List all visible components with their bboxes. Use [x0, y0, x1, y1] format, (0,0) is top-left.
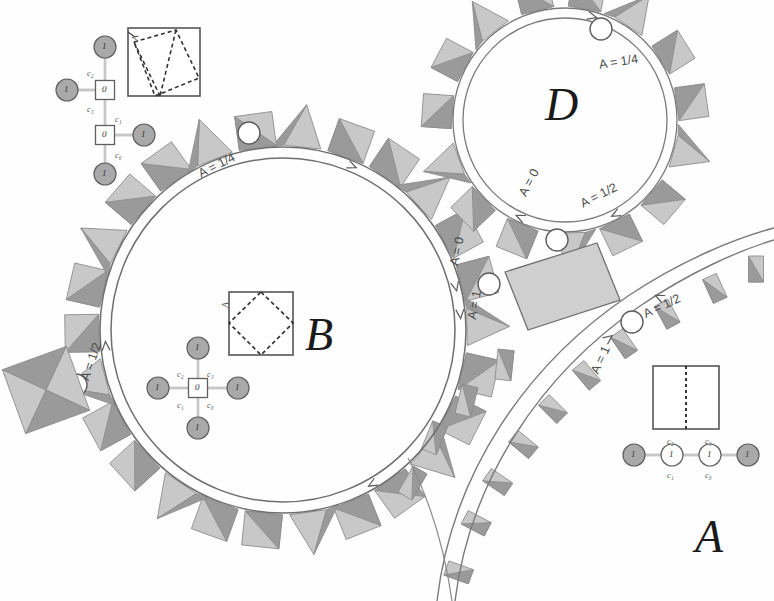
- graph-node-mid-left-label: 1: [669, 449, 674, 459]
- edge-label-c1: c₁: [667, 470, 674, 480]
- junction-node-d-bottom: [546, 229, 568, 251]
- graph-node-square-upper-label: 0: [102, 84, 107, 94]
- edge-label-c2: c₂: [87, 68, 94, 78]
- letter-B: B: [305, 308, 333, 361]
- graph-node-far-left-label: 1: [631, 449, 636, 459]
- graph-node-mid-right-label: 1: [707, 449, 712, 459]
- junction-node-d-top: [590, 18, 612, 40]
- letter-D: D: [545, 78, 578, 131]
- junction-node-a-top: [621, 311, 643, 333]
- graph-node-bottom-label: 1: [102, 168, 107, 178]
- edge-label-c3: c₃: [705, 436, 712, 446]
- graph-node-far-right-label: 1: [745, 449, 750, 459]
- graph-node-left-label: 1: [64, 84, 69, 94]
- corner-label-A: A: [130, 35, 140, 41]
- graph-node-down-label: 1: [195, 422, 200, 432]
- graph-node-top-label: 1: [102, 41, 107, 51]
- square-diagram-A: [653, 366, 719, 429]
- graph-node-center-label: 0: [195, 382, 200, 392]
- edge-label-c2: c₂: [177, 369, 184, 379]
- graph-node-left-label: 1: [155, 382, 160, 392]
- graph-node-right-label: 1: [235, 382, 240, 392]
- junction-node-b-top: [238, 122, 260, 144]
- edge-label-c2: c₂: [667, 436, 674, 446]
- graph-node-up-label: 1: [195, 342, 200, 352]
- edge-label-c0: c₀: [115, 150, 122, 160]
- edge-label-c0: c₀: [207, 400, 214, 410]
- edge-label-c3: c₃: [207, 369, 214, 379]
- graph-node-right-label: 1: [141, 129, 146, 139]
- graph-node-square-lower-label: 0: [102, 129, 107, 139]
- ring-arrow: [456, 309, 465, 319]
- square-diagram-B: [229, 292, 293, 355]
- edge-label-c3: c₃: [87, 104, 94, 114]
- edge-label-c1: c₁: [177, 400, 184, 410]
- edge-label-c1: c₁: [115, 114, 122, 124]
- letter-A: A: [695, 510, 723, 563]
- corner-label-A: A: [220, 302, 230, 308]
- figure-canvas: B D A A = 1/4A = 0A = 1A = 1/2A = 1/4A =…: [0, 0, 774, 601]
- edge-label-c0: c₀: [705, 470, 712, 480]
